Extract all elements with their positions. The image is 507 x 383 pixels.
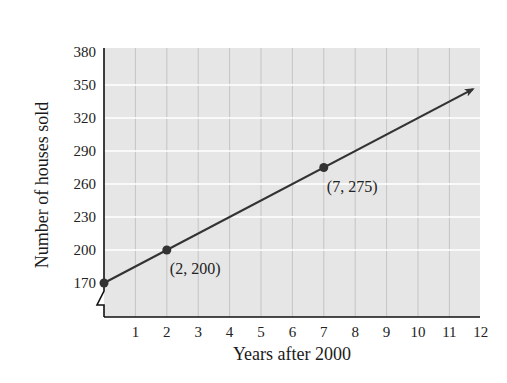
data-point — [100, 279, 109, 288]
x-tick-label: 8 — [351, 324, 359, 340]
x-tick-label: 11 — [442, 324, 456, 340]
y-axis — [97, 48, 104, 317]
y-tick-labels: 170200230260290320350380 — [74, 44, 97, 291]
point-label: (2, 200) — [170, 260, 221, 278]
data-point — [162, 246, 171, 255]
x-tick-label: 4 — [226, 324, 234, 340]
x-tick-label: 5 — [257, 324, 265, 340]
y-tick-label: 380 — [74, 44, 97, 60]
y-tick-label: 260 — [74, 176, 97, 192]
x-tick-label: 10 — [411, 324, 426, 340]
x-tick-label: 9 — [383, 324, 391, 340]
x-tick-label: 6 — [289, 324, 297, 340]
y-tick-label: 230 — [74, 209, 97, 225]
x-tick-label: 1 — [132, 324, 140, 340]
y-tick-label: 200 — [74, 242, 97, 258]
point-label: (7, 275) — [327, 178, 378, 196]
y-tick-label: 350 — [74, 77, 97, 93]
x-tick-label: 3 — [194, 324, 202, 340]
y-tick-label: 320 — [74, 110, 97, 126]
x-tick-label: 7 — [320, 324, 328, 340]
y-axis-label: Number of houses sold — [32, 102, 52, 268]
x-tick-label: 2 — [163, 324, 171, 340]
y-tick-label: 290 — [74, 143, 97, 159]
y-tick-label: 170 — [74, 275, 97, 291]
line-chart: 170200230260290320350380 123456789101112… — [0, 0, 507, 383]
x-axis-label: Years after 2000 — [233, 344, 351, 364]
x-tick-label: 12 — [473, 324, 488, 340]
data-point — [319, 163, 328, 172]
x-tick-labels: 123456789101112 — [132, 324, 489, 340]
